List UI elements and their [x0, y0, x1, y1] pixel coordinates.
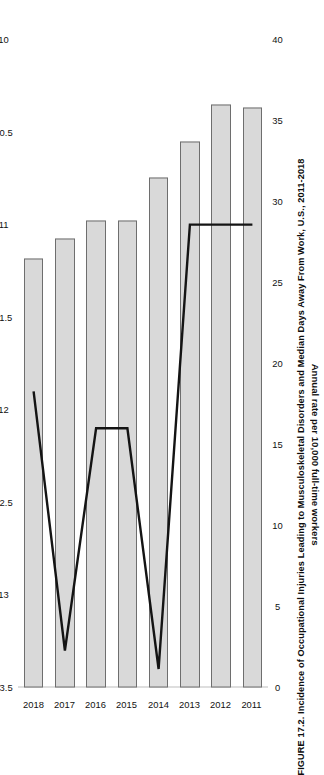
- category-tick-2013: 2013: [176, 699, 202, 710]
- rate-tick-15: 15: [269, 438, 286, 449]
- category-tick-2018: 2018: [20, 699, 46, 710]
- rate-tick-20: 20: [269, 357, 286, 368]
- category-tick-2011: 2011: [239, 699, 265, 710]
- line-series: [18, 39, 268, 687]
- rate-tick-10: 10: [269, 519, 286, 530]
- days-tick-13: 13: [0, 588, 15, 599]
- category-tick-2015: 2015: [114, 699, 140, 710]
- rate-tick-0: 0: [269, 681, 286, 692]
- line-path: [34, 224, 253, 668]
- chart-canvas: FIGURE 17.2. Incidence of Occupational I…: [0, 0, 324, 775]
- figure-title: FIGURE 17.2. Incidence of Occupational I…: [296, 0, 306, 775]
- category-tick-2012: 2012: [208, 699, 234, 710]
- days-tick-12: 12: [0, 403, 15, 414]
- rotated-figure: FIGURE 17.2. Incidence of Occupational I…: [0, 0, 324, 775]
- category-tick-2016: 2016: [83, 699, 109, 710]
- category-tick-2014: 2014: [145, 699, 171, 710]
- rate-axis-title: Annual rate per 10,000 full-time workers: [310, 363, 321, 545]
- days-tick-13.5: 13.5: [0, 681, 15, 692]
- rate-tick-25: 25: [269, 276, 286, 287]
- days-tick-11: 11: [0, 218, 15, 229]
- rate-tick-5: 5: [269, 600, 286, 611]
- rate-tick-30: 30: [269, 195, 286, 206]
- rate-tick-40: 40: [269, 33, 286, 44]
- category-tick-2017: 2017: [51, 699, 77, 710]
- days-tick-11.5: 11.5: [0, 311, 15, 322]
- days-tick-12.5: 12.5: [0, 496, 15, 507]
- rate-tick-35: 35: [269, 114, 286, 125]
- plot-area: [18, 39, 268, 687]
- days-tick-10: 10: [0, 33, 15, 44]
- days-tick-10.5: 10.5: [0, 126, 15, 137]
